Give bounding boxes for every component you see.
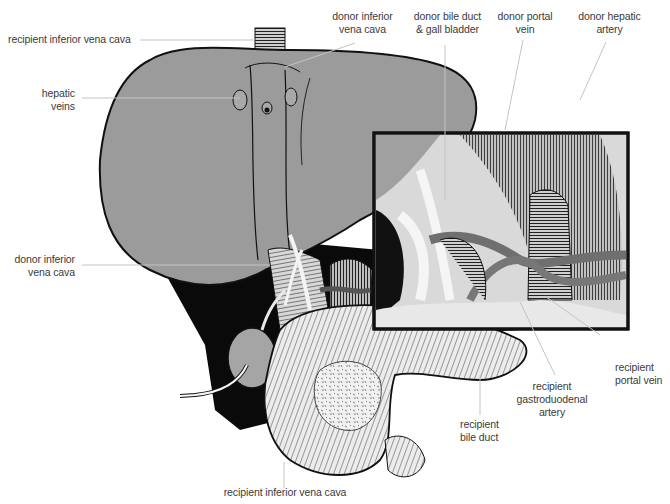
- label-donor-bile-duct: donor bile duct & gall bladder: [410, 10, 485, 36]
- label-donor-ivc-top: donor inferior vena cava: [325, 10, 400, 36]
- label-recipient-bile-duct: recipient bile duct: [460, 418, 499, 444]
- liver-transplant-diagram: recipient inferior vena cava donor infer…: [0, 0, 670, 504]
- label-hepatic-veins: hepatic veins: [30, 87, 75, 113]
- inset-magnified-view: [374, 133, 628, 329]
- label-recipient-gastroduodenal-artery: recipient gastroduodenal artery: [512, 380, 592, 419]
- pancreas-duodenum: [264, 305, 526, 477]
- label-donor-ivc-left: donor inferior vena cava: [0, 253, 75, 279]
- label-recipient-portal-vein: recipient portal vein: [615, 361, 662, 387]
- anatomical-illustration: [0, 0, 670, 504]
- label-recipient-ivc-top: recipient inferior vena cava: [8, 33, 131, 46]
- label-donor-portal-vein: donor portal vein: [490, 10, 560, 36]
- label-recipient-ivc-bottom: recipient inferior vena cava: [215, 486, 355, 499]
- label-donor-hepatic-artery: donor hepatic artery: [572, 10, 647, 36]
